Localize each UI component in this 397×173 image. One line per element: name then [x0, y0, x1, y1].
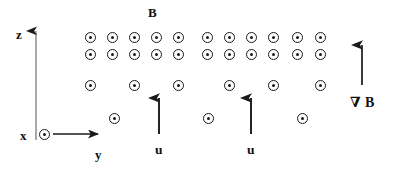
x-axis-out-of-page-icon [39, 129, 50, 140]
field-dot [85, 49, 96, 60]
velocity-label-right: u [247, 143, 255, 157]
x-axis-label: x [20, 129, 27, 142]
field-dot [268, 49, 279, 60]
field-dot [85, 32, 96, 43]
field-dot [202, 49, 213, 60]
z-axis-label: z [16, 28, 22, 41]
field-dot [202, 32, 213, 43]
field-gradient-diagram: B z y x u u ∇ B [0, 0, 397, 173]
field-dot [173, 80, 184, 91]
field-label: B [148, 6, 157, 19]
field-dot [129, 80, 140, 91]
field-dot [315, 80, 326, 91]
field-dot [246, 32, 257, 43]
field-dot [107, 32, 118, 43]
arrow-layer [0, 0, 397, 173]
field-dot [224, 80, 235, 91]
field-dot [85, 80, 96, 91]
field-dot [173, 32, 184, 43]
field-dot [315, 49, 326, 60]
field-dot [315, 32, 326, 43]
field-dot [246, 49, 257, 60]
field-dot [292, 49, 303, 60]
y-axis-label: y [95, 148, 102, 161]
gradient-label: ∇ B [350, 96, 375, 110]
field-dot [292, 32, 303, 43]
field-dot [129, 32, 140, 43]
velocity-label-left: u [155, 143, 163, 157]
field-dot [203, 113, 214, 124]
field-dot [297, 113, 308, 124]
field-dot [151, 32, 162, 43]
field-dot [173, 49, 184, 60]
field-dot [268, 80, 279, 91]
field-dot [224, 32, 235, 43]
field-dot [224, 49, 235, 60]
field-dot [107, 49, 118, 60]
field-dot [268, 32, 279, 43]
field-dot [129, 49, 140, 60]
field-dot [151, 49, 162, 60]
field-dot [109, 113, 120, 124]
